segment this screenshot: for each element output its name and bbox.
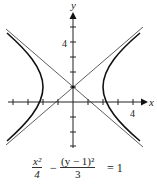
hyperbola-left-branch [7,33,43,141]
fraction-x-squared-over-4: x² 4 [32,155,42,180]
hyperbola-right-branch [103,33,140,141]
hyperbola-graph: y x 4 4 [0,0,157,150]
asymptote-line-2 [6,29,143,147]
x-tick-label-4: 4 [130,108,135,119]
term1-numerator: x² [32,155,42,168]
equation: x² 4 − (y − 1)² 3 = 1 [0,150,157,189]
equals-one: = 1 [107,161,123,176]
y-tick-label-4: 4 [62,38,67,49]
term2-denominator: 3 [75,168,81,180]
minus-sign: − [50,161,57,176]
x-axis-label: x [148,96,154,108]
fraction-y-minus-1-squared-over-3: (y − 1)² 3 [60,155,95,180]
center-point [71,85,74,88]
y-axis-arrow-icon [70,12,77,19]
asymptote-line-1 [6,27,143,145]
x-axis-arrow-icon [141,99,148,106]
term1-denominator: 4 [34,168,40,180]
y-axis-label: y [70,0,76,11]
term2-numerator: (y − 1)² [60,155,95,168]
